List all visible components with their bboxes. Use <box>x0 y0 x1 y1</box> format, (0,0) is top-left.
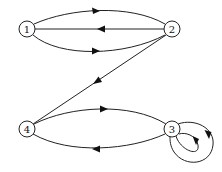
node-2[interactable]: 2 <box>164 21 180 37</box>
edge-2-to-1 <box>35 26 164 33</box>
node-1[interactable]: 1 <box>19 21 35 37</box>
node-label: 4 <box>24 124 30 135</box>
node-label: 2 <box>169 24 175 35</box>
edge-1-to-2-lower <box>33 35 165 55</box>
edge-4-to-3 <box>34 106 166 125</box>
arrow-left-icon <box>92 146 100 153</box>
arrow-right-icon <box>100 106 108 113</box>
arrow-down-left-icon <box>93 77 102 85</box>
node-4[interactable]: 4 <box>19 121 35 137</box>
node-label: 1 <box>24 24 30 35</box>
arrow-down-icon <box>205 130 212 139</box>
directed-graph: 1 2 3 4 <box>0 0 222 172</box>
edge-2-to-4 <box>33 35 166 124</box>
edge-1-to-2-upper <box>34 8 165 25</box>
self-loop-3-inner <box>176 133 199 151</box>
node-label: 3 <box>169 124 175 135</box>
edge-3-to-4 <box>33 134 165 153</box>
node-3[interactable]: 3 <box>164 121 180 137</box>
arrow-right-icon <box>92 48 100 55</box>
arrow-right-icon <box>92 8 100 15</box>
arrow-left-icon <box>97 26 105 33</box>
